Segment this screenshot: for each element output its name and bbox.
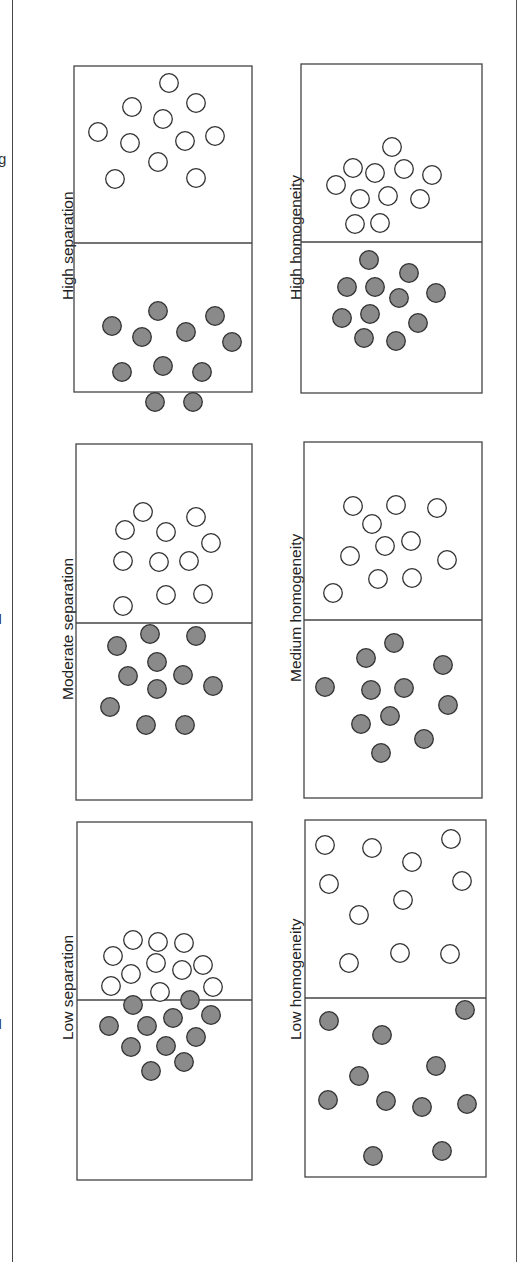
filled-circle-point (352, 715, 371, 734)
hollow-circle-point (351, 190, 370, 209)
filled-circle-point (415, 730, 434, 749)
filled-circle-point (433, 1142, 452, 1161)
hollow-circle-point (344, 159, 363, 178)
filled-circle-point (181, 991, 200, 1010)
filled-circle-point (137, 716, 156, 735)
filled-circle-point (377, 1092, 396, 1111)
hollow-circle-point (344, 497, 363, 516)
hollow-circle-point (202, 534, 221, 553)
filled-circle-point (350, 1067, 369, 1086)
panel-border (77, 822, 252, 1180)
hollow-circle-point (122, 965, 141, 984)
hollow-circle-point (428, 499, 447, 518)
filled-circle-point (223, 333, 242, 352)
hollow-circle-point (124, 931, 143, 950)
hollow-circle-point (346, 215, 365, 234)
hollow-circle-point (320, 875, 339, 894)
hollow-circle-point (194, 956, 213, 975)
hollow-circle-point (104, 947, 123, 966)
filled-circle-point (176, 716, 195, 735)
filled-circle-point (390, 289, 409, 308)
filled-circle-point (148, 680, 167, 699)
filled-circle-point (187, 627, 206, 646)
hollow-circle-point (160, 74, 179, 93)
hollow-circle-point (102, 977, 121, 996)
filled-circle-point (193, 363, 212, 382)
panel-border (76, 444, 252, 800)
hollow-circle-point (376, 537, 395, 556)
filled-circle-point (458, 1095, 477, 1114)
filled-circle-point (146, 393, 165, 412)
filled-circle-point (373, 1026, 392, 1045)
panel-moderate-separation (76, 444, 252, 800)
hollow-circle-point (175, 934, 194, 953)
filled-circle-point (138, 1017, 157, 1036)
filled-circle-point (319, 1091, 338, 1110)
hollow-circle-point (341, 547, 360, 566)
filled-circle-point (142, 1062, 161, 1081)
filled-circle-point (364, 1147, 383, 1166)
filled-circle-point (320, 1012, 339, 1031)
filled-circle-point (164, 1009, 183, 1028)
hollow-circle-point (383, 138, 402, 157)
filled-circle-point (175, 1053, 194, 1072)
hollow-circle-point (149, 933, 168, 952)
hollow-circle-point (423, 166, 442, 185)
filled-circle-point (439, 696, 458, 715)
filled-circle-point (366, 278, 385, 297)
hollow-circle-point (369, 570, 388, 589)
filled-circle-point (133, 328, 152, 347)
filled-circle-point (100, 1017, 119, 1036)
hollow-circle-point (151, 983, 170, 1002)
hollow-circle-point (114, 597, 133, 616)
filled-circle-point (174, 666, 193, 685)
hollow-circle-point (176, 132, 195, 151)
filled-circle-point (204, 677, 223, 696)
filled-circle-point (149, 302, 168, 321)
hollow-circle-point (180, 552, 199, 571)
hollow-circle-point (154, 110, 173, 129)
filled-circle-point (395, 679, 414, 698)
hollow-circle-point (402, 532, 421, 551)
hollow-circle-point (363, 839, 382, 858)
panel-high-homogeneity (301, 64, 482, 393)
separation-homogeneity-figure (0, 0, 522, 1262)
filled-circle-point (119, 667, 138, 686)
hollow-circle-point (379, 187, 398, 206)
filled-circle-point (206, 307, 225, 326)
filled-circle-point (355, 329, 374, 348)
hollow-circle-point (324, 584, 343, 603)
filled-circle-point (184, 393, 203, 412)
filled-circle-point (202, 1006, 221, 1025)
hollow-circle-point (206, 127, 225, 146)
hollow-circle-point (157, 523, 176, 542)
hollow-circle-point (204, 978, 223, 997)
hollow-circle-point (395, 160, 414, 179)
filled-circle-point (113, 363, 132, 382)
panel-low-homogeneity (305, 820, 486, 1177)
filled-circle-point (124, 996, 143, 1015)
filled-circle-point (101, 698, 120, 717)
hollow-circle-point (194, 585, 213, 604)
hollow-circle-point (114, 552, 133, 571)
filled-circle-point (187, 1028, 206, 1047)
filled-circle-point (154, 357, 173, 376)
filled-circle-point (316, 678, 335, 697)
filled-circle-point (357, 649, 376, 668)
hollow-circle-point (187, 94, 206, 113)
filled-circle-point (362, 681, 381, 700)
filled-circle-point (148, 653, 167, 672)
hollow-circle-point (363, 515, 382, 534)
filled-circle-point (177, 323, 196, 342)
filled-circle-point (360, 251, 379, 270)
hollow-circle-point (391, 944, 410, 963)
filled-circle-point (434, 656, 453, 675)
hollow-circle-point (316, 836, 335, 855)
hollow-circle-point (149, 153, 168, 172)
filled-circle-point (333, 309, 352, 328)
filled-circle-point (385, 634, 404, 653)
hollow-circle-point (121, 134, 140, 153)
hollow-circle-point (173, 961, 192, 980)
filled-circle-point (157, 1037, 176, 1056)
filled-circle-point (338, 278, 357, 297)
